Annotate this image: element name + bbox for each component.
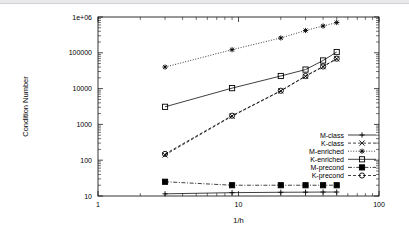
data-point-marker xyxy=(229,183,234,188)
y-tick-label: 100000 xyxy=(69,49,92,56)
data-point-marker xyxy=(320,183,325,188)
data-point-marker xyxy=(303,183,308,188)
y-axis-title: Condition Number xyxy=(21,76,30,137)
x-tick-label: 100 xyxy=(373,201,385,208)
x-axis-title: 1/h xyxy=(233,216,243,225)
y-tick-label: 10000 xyxy=(73,85,93,92)
data-point-marker xyxy=(334,183,339,188)
series-line-m-enriched xyxy=(165,23,337,68)
plot-legend: M-classK-classM-enrichedK-enrichedM-prec… xyxy=(309,132,376,181)
legend-label-k-class: K-class xyxy=(321,140,344,147)
condition-number-log-log-plot: 110100101001000100001000001e+06 M-classK… xyxy=(0,5,409,242)
series-line-m-class xyxy=(165,192,337,194)
data-point-marker xyxy=(162,104,167,109)
series-markers-m-precond xyxy=(162,179,339,188)
y-tick-label: 1000 xyxy=(76,121,92,128)
y-tick-label: 10 xyxy=(84,193,92,200)
legend-sample-marker xyxy=(359,165,364,170)
y-tick-label: 1e+06 xyxy=(72,14,92,21)
legend-label-k-precond: K-precond xyxy=(312,172,344,180)
plot-axis-titles: 1/hCondition Number xyxy=(21,76,244,225)
x-tick-label: 1 xyxy=(96,201,100,208)
series-markers-k-class xyxy=(162,56,339,157)
legend-label-k-enriched: K-enriched xyxy=(310,156,344,163)
x-tick-label: 10 xyxy=(235,201,243,208)
top-bar-strip xyxy=(0,0,409,4)
chart-figure: 110100101001000100001000001e+06 M-classK… xyxy=(0,5,409,242)
data-point-marker xyxy=(278,183,283,188)
series-markers-m-class xyxy=(162,189,339,196)
legend-label-m-class: M-class xyxy=(320,132,345,139)
y-tick-label: 100 xyxy=(80,157,92,164)
series-line-m-precond xyxy=(165,182,337,185)
series-line-k-precond xyxy=(165,59,337,154)
data-point-marker xyxy=(162,179,167,184)
legend-label-m-precond: M-precond xyxy=(311,164,345,172)
legend-label-m-enriched: M-enriched xyxy=(309,148,344,155)
